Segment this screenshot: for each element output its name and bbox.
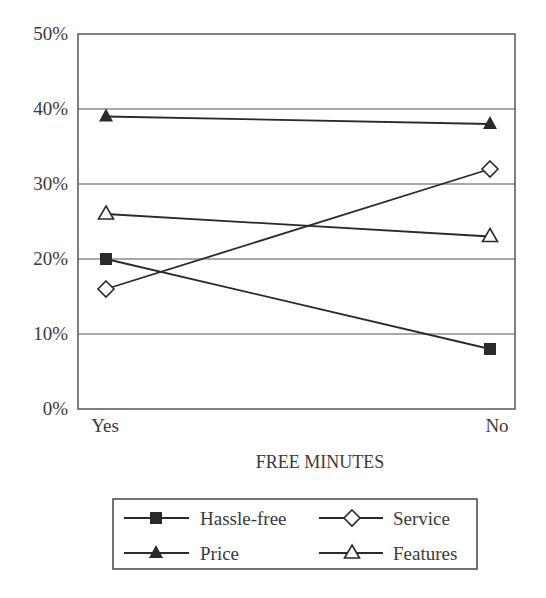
series-line [106, 259, 490, 349]
series-features [99, 206, 498, 242]
series-line [106, 214, 490, 237]
legend-item-hassle-free: Hassle-free [124, 508, 287, 529]
triangle-marker-icon [99, 109, 113, 122]
series-service [98, 161, 498, 297]
legend-item-service: Service [319, 508, 450, 529]
square-marker-icon [484, 343, 496, 355]
line-chart: 0%10%20%30%40%50% YesNo FREE MINUTES Has… [0, 0, 546, 598]
triangle-marker-icon [345, 545, 360, 558]
series-hassle-free [100, 253, 496, 355]
y-tick-label: 0% [43, 398, 69, 419]
gridlines [78, 109, 515, 334]
legend: Hassle-freeServicePriceFeatures [113, 499, 477, 569]
y-tick-label: 50% [33, 23, 68, 44]
x-axis-tick-labels: YesNo [91, 415, 508, 436]
y-tick-label: 30% [33, 173, 68, 194]
x-axis-title: FREE MINUTES [256, 452, 385, 472]
triangle-marker-icon [99, 206, 114, 219]
triangle-marker-icon [149, 545, 163, 558]
legend-item-price: Price [124, 543, 239, 564]
legend-label: Service [393, 508, 450, 529]
x-tick-label: No [485, 415, 508, 436]
series-price [99, 109, 497, 130]
diamond-marker-icon [344, 510, 360, 526]
plot-area-frame [78, 34, 515, 409]
data-series [98, 109, 498, 356]
diamond-marker-icon [482, 161, 498, 177]
diamond-marker-icon [98, 281, 114, 297]
series-line [106, 117, 490, 125]
series-line [106, 169, 490, 289]
y-tick-label: 40% [33, 98, 68, 119]
legend-label: Price [200, 543, 239, 564]
legend-label: Hassle-free [200, 508, 287, 529]
square-marker-icon [150, 512, 162, 524]
y-tick-label: 20% [33, 248, 68, 269]
square-marker-icon [100, 253, 112, 265]
triangle-marker-icon [483, 229, 498, 242]
legend-item-features: Features [319, 543, 457, 564]
y-axis-tick-labels: 0%10%20%30%40%50% [33, 23, 68, 419]
legend-label: Features [393, 543, 457, 564]
y-tick-label: 10% [33, 323, 68, 344]
triangle-marker-icon [483, 116, 497, 129]
x-tick-label: Yes [91, 415, 119, 436]
